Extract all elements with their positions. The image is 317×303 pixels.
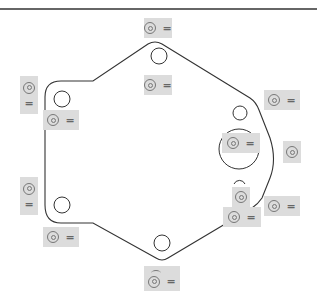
concentric-circle-icon	[227, 137, 239, 149]
concentric-circle-icon	[235, 191, 247, 203]
label-text: =	[166, 276, 175, 287]
label-text: =	[162, 80, 171, 91]
label-right-middle[interactable]	[283, 141, 301, 163]
concentric-circle-icon	[268, 200, 280, 212]
label-right-upper[interactable]: =	[264, 90, 300, 110]
label-text: =	[246, 212, 255, 223]
label-bottom-hole[interactable]: =	[144, 266, 180, 291]
concentric-circle-icon	[47, 114, 59, 126]
label-text: =	[162, 23, 171, 34]
concentric-circle-icon	[286, 146, 298, 158]
label-right-lower-inner[interactable]: =	[223, 207, 261, 227]
hole-left-lower	[54, 197, 70, 213]
label-left-lower-vertical[interactable]: =	[20, 177, 38, 215]
label-text: =	[65, 115, 74, 126]
label-text: =	[245, 138, 254, 149]
hole-top	[151, 48, 167, 64]
concentric-circle-icon	[144, 79, 156, 91]
concentric-circle-icon	[268, 94, 280, 106]
concentric-circle-icon	[144, 22, 156, 34]
hole-left-upper	[54, 91, 70, 107]
label-center-large-hole[interactable]: =	[222, 133, 260, 153]
label-right-lower[interactable]: =	[264, 196, 300, 216]
label-text: =	[24, 199, 33, 210]
concentric-circle-icon	[228, 211, 240, 223]
concentric-circle-icon	[23, 82, 35, 94]
label-text: =	[24, 98, 33, 109]
label-text: =	[286, 95, 295, 106]
label-top-hole-upper[interactable]: =	[144, 18, 172, 38]
label-top-hole-lower[interactable]: =	[144, 75, 172, 95]
flange-drawing	[0, 0, 317, 303]
label-left-upper-hole[interactable]: =	[43, 110, 79, 130]
hole-small-arc	[234, 180, 245, 184]
label-small-arc-hole[interactable]	[232, 187, 250, 207]
label-text: =	[286, 201, 295, 212]
concentric-circle-icon	[47, 231, 59, 243]
label-left-upper-vertical[interactable]: =	[20, 76, 38, 114]
label-left-lower-hole[interactable]: =	[43, 227, 79, 247]
concentric-circle-icon	[23, 183, 35, 195]
hole-bottom	[154, 235, 170, 251]
arc-icon	[151, 270, 161, 276]
concentric-circle-icon	[148, 276, 160, 288]
hole-right-upper	[233, 106, 247, 120]
label-text: =	[65, 232, 74, 243]
